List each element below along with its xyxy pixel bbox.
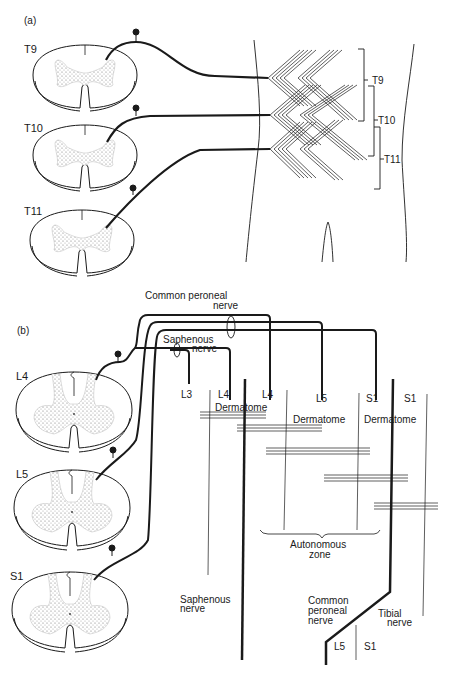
cord-section-l5 (14, 470, 130, 550)
common-peroneal-top-label-2: nerve (213, 300, 238, 311)
segment-label-l5: L5 (16, 468, 28, 480)
cord-section-t10 (33, 125, 137, 191)
overlap-hatches (200, 412, 438, 509)
segment-label-t10: T10 (24, 122, 43, 134)
common-peroneal-bottom-label-3: nerve (308, 615, 333, 626)
dermatome-label-1: Dermatome (215, 402, 268, 413)
cord-section-s1 (12, 572, 128, 652)
panel-a-label: (a) (24, 15, 36, 26)
root-label-s1-b: S1 (404, 393, 417, 404)
dermatome-diagram: (a) T9 T10 T11 (0, 0, 458, 676)
autonomous-zone-label-2: zone (309, 549, 331, 560)
panel-b-label: (b) (17, 325, 29, 336)
root-label-l4-a: L4 (218, 389, 230, 400)
root-label-s1-a: S1 (366, 393, 379, 404)
root-label-l3: L3 (181, 389, 193, 400)
cord-section-t11 (30, 210, 134, 276)
segment-label-s1: S1 (10, 570, 23, 582)
saphenous-bottom-label-2: nerve (180, 603, 205, 614)
root-label-l5: L5 (316, 393, 328, 404)
tibial-nerve-label-2: nerve (387, 617, 412, 628)
bracket-label-t9: T9 (372, 75, 384, 86)
bottom-label-s1: S1 (364, 641, 377, 652)
dermatome-label-2: Dermatome (293, 414, 346, 425)
bracket-label-t10: T10 (378, 115, 396, 126)
root-label-l4-b: L4 (262, 389, 274, 400)
segment-label-t11: T11 (24, 205, 42, 217)
bottom-label-l5: L5 (334, 641, 346, 652)
cord-section-t9 (33, 45, 137, 111)
autonomous-zone-brace (260, 530, 380, 538)
bracket-label-t11: T11 (384, 154, 401, 165)
dermatome-label-3: Dermatome (364, 414, 417, 425)
torso-outline (246, 40, 414, 262)
saphenous-top-label-2: nerve (192, 343, 217, 354)
segment-label-t9: T9 (24, 43, 37, 55)
cord-section-l4 (16, 372, 132, 452)
segment-label-l4: L4 (16, 370, 28, 382)
dermatome-chevrons (268, 50, 367, 180)
